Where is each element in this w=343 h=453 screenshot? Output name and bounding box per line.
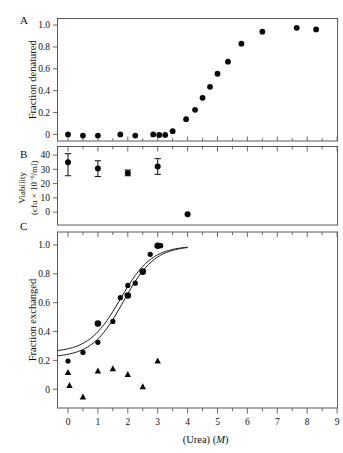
panel-b-data [65, 154, 191, 218]
data-point-circle [156, 132, 162, 138]
data-point-circle [313, 27, 319, 33]
panel-a-y-tick-label: 1.0 [38, 20, 50, 30]
panel-a-y-axis-title: Fraction denatured [27, 39, 38, 119]
data-point-circle [185, 211, 191, 217]
data-point-circle [207, 84, 213, 90]
data-point-circle [95, 133, 101, 139]
data-point-circle [162, 132, 168, 138]
data-point-circle [158, 243, 163, 248]
panel-a-y-tick-label: 0.4 [38, 86, 50, 96]
data-point-circle [118, 295, 123, 300]
data-point-circle [80, 350, 85, 355]
data-point-circle [294, 25, 300, 31]
panel-b-y-tick-label: 0 [45, 207, 50, 217]
data-point-circle [95, 166, 101, 172]
data-point-triangle [66, 382, 72, 388]
panel-c-y-axis: 00.20.40.60.81.0 [38, 240, 57, 394]
data-point-circle [192, 107, 198, 113]
x-tick-label: 8 [305, 417, 310, 427]
panel-b-letter: B [20, 148, 27, 160]
x-tick-label: 1 [96, 417, 101, 427]
panel-b-y-tick-label: 40 [41, 150, 51, 160]
x-tick-label: 4 [185, 417, 190, 427]
panel-a-y-tick-label: 0.8 [38, 42, 50, 52]
panel-c-y-axis-title: Fraction exchanged [27, 278, 38, 361]
panel-a-y-tick-label: 0.2 [38, 108, 50, 118]
x-tick-label: 5 [215, 417, 220, 427]
panel-c-frame [58, 232, 338, 408]
panel-frames [58, 19, 338, 409]
x-axis-title: (Urea) (M) [183, 434, 229, 446]
data-point-circle [133, 281, 138, 286]
data-point-circle [225, 59, 231, 65]
panel-c-y-tick-label: 0.2 [38, 356, 50, 366]
data-point-circle [155, 163, 161, 169]
data-point-circle [125, 283, 130, 288]
data-point-circle [125, 292, 132, 299]
y-axis-titles: Fraction denaturedViability(cfu × 10−6/m… [17, 39, 39, 361]
panel-b-y-axis-title-line2: (cfu × 10−6/ml) [28, 160, 40, 215]
three-panel-urea-denaturation-figure: 0123456789(Urea) (M)00.20.40.60.81.00102… [0, 0, 343, 453]
data-point-circle [95, 340, 100, 345]
panel-b-frame [58, 147, 338, 226]
panel-c-data [58, 242, 188, 399]
data-point-triangle [155, 357, 161, 363]
data-point-circle [125, 170, 131, 176]
data-point-triangle [140, 383, 146, 389]
data-point-circle [117, 132, 123, 138]
x-tick-label: 2 [125, 417, 130, 427]
data-point-triangle [125, 371, 131, 377]
fit-curve-2 [58, 248, 188, 356]
data-point-triangle [65, 369, 71, 375]
data-point-circle [150, 132, 156, 138]
panel-b-y-tick-label: 10 [41, 193, 51, 203]
data-point-triangle [110, 365, 116, 371]
x-tick-label: 9 [335, 417, 340, 427]
panel-a-y-tick-label: 0.6 [38, 64, 50, 74]
data-point-circle [170, 128, 176, 134]
panel-b-y-axis: 010203040 [41, 150, 58, 217]
panel-a-y-axis: 00.20.40.60.81.0 [38, 20, 57, 139]
panel-a-letter: A [20, 14, 28, 26]
panel-c-y-tick-label: 0.4 [38, 327, 50, 337]
data-point-circle [110, 319, 115, 324]
data-point-circle [183, 116, 189, 122]
panel-c-letter: C [20, 220, 27, 232]
data-point-circle [139, 268, 146, 275]
data-point-circle [259, 29, 265, 35]
panel-b-y-tick-label: 30 [41, 165, 51, 175]
data-point-circle [65, 359, 70, 364]
data-point-triangle [95, 367, 101, 373]
x-tick-label: 3 [155, 417, 160, 427]
panel-a-data [65, 25, 319, 139]
x-axis-title-text: (Urea) (M) [183, 434, 229, 446]
data-point-circle [132, 133, 138, 139]
data-point-circle [65, 132, 71, 138]
x-axis-tick-labels: 0123456789 [66, 417, 340, 427]
data-point-circle [148, 252, 153, 257]
x-tick-label: 7 [275, 417, 280, 427]
data-point-circle [80, 133, 86, 139]
data-point-circle [239, 41, 245, 47]
panel-a-y-tick-label: 0 [45, 130, 50, 140]
panel-c-y-tick-label: 1.0 [38, 240, 50, 250]
data-point-circle [215, 71, 221, 77]
data-point-circle [95, 320, 102, 327]
panel-a-frame [58, 19, 338, 142]
panel-c-y-tick-label: 0.8 [38, 269, 50, 279]
panel-b-y-tick-label: 20 [41, 179, 51, 189]
x-tick-label: 6 [245, 417, 250, 427]
panel-c-y-tick-label: 0 [45, 385, 50, 395]
data-point-circle [200, 95, 206, 101]
panel-b-y-axis-title-line1: Viability [17, 172, 27, 204]
panel-c-y-tick-label: 0.6 [38, 298, 50, 308]
data-point-triangle [80, 393, 86, 399]
data-point-circle [65, 159, 71, 165]
figure-container: 0123456789(Urea) (M)00.20.40.60.81.00102… [0, 0, 343, 453]
x-tick-label: 0 [66, 417, 71, 427]
x-axis-ticks [68, 137, 337, 414]
